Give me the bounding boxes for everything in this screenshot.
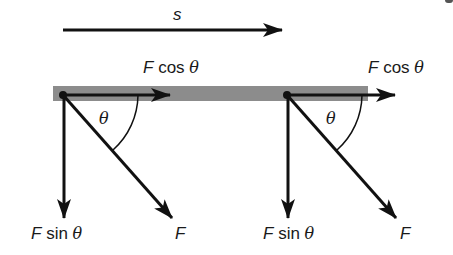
force-diagram [0, 0, 453, 255]
horizontal-component-label: F cos θ [368, 59, 424, 76]
angle-label: θ [326, 110, 336, 127]
theta-symbol: θ [99, 109, 109, 128]
function-name: cos [158, 58, 184, 77]
theta-symbol: θ [189, 58, 199, 77]
vertical-component-label: F sin θ [263, 225, 314, 242]
force-symbol: F [175, 224, 185, 243]
force-symbol: F [368, 58, 378, 77]
theta-symbol: θ [326, 109, 336, 128]
function-name: sin [278, 224, 300, 243]
panel-1 [59, 91, 172, 218]
angle-arc [337, 95, 362, 150]
vertical-component-label: F sin θ [31, 225, 82, 242]
horizontal-component-label: F cos θ [143, 59, 199, 76]
force-label: F [400, 225, 410, 242]
displacement-symbol: s [173, 5, 182, 24]
origin-dot [283, 91, 291, 99]
origin-dot [59, 91, 67, 99]
theta-symbol: θ [305, 224, 315, 243]
function-name: cos [383, 58, 409, 77]
angle-arc [113, 95, 138, 150]
force-symbol: F [31, 224, 41, 243]
displacement-label: s [173, 6, 182, 23]
force-arrow [63, 95, 172, 218]
force-label: F [175, 225, 185, 242]
function-name: sin [46, 224, 68, 243]
force-symbol: F [143, 58, 153, 77]
force-arrow [287, 95, 396, 218]
force-symbol: F [400, 224, 410, 243]
angle-label: θ [99, 110, 109, 127]
theta-symbol: θ [73, 224, 83, 243]
theta-symbol: θ [414, 58, 424, 77]
panel-2 [283, 91, 396, 218]
force-symbol: F [263, 224, 273, 243]
